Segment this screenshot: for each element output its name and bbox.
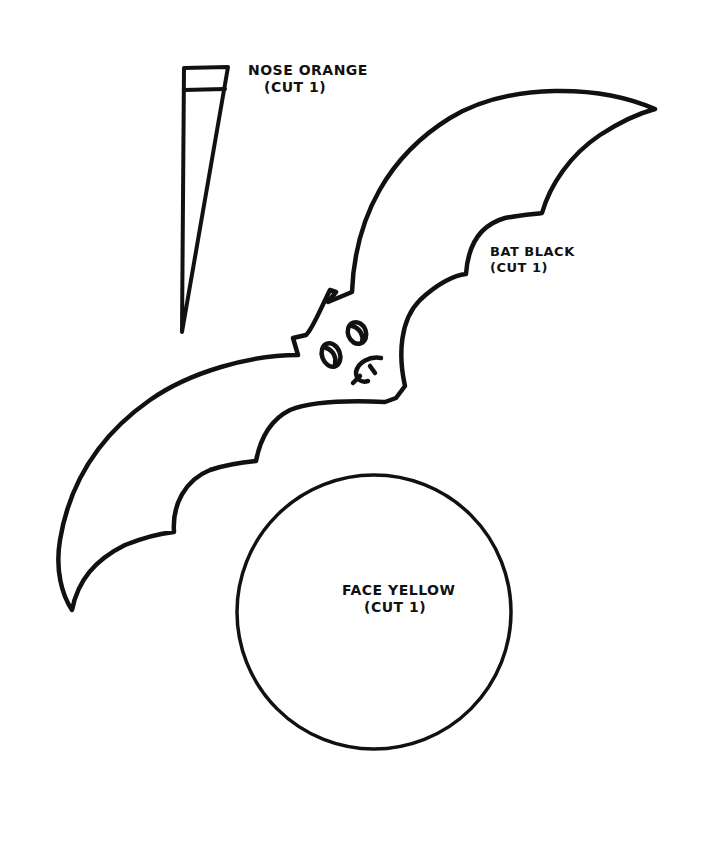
face-label: FACE YELLOW (CUT 1): [342, 582, 455, 616]
face-name: FACE YELLOW: [342, 582, 455, 599]
bat-piece: [58, 91, 655, 610]
nose-cut-count: (CUT 1): [264, 79, 368, 96]
nose-piece: [182, 67, 228, 332]
bat-name: BAT BLACK: [490, 244, 575, 260]
face-cut-count: (CUT 1): [364, 599, 455, 616]
nose-label: NOSE ORANGE (CUT 1): [248, 62, 368, 96]
bat-cut-count: (CUT 1): [490, 260, 575, 276]
nose-name: NOSE ORANGE: [248, 62, 368, 79]
bat-label: BAT BLACK (CUT 1): [490, 244, 575, 275]
template-canvas: [0, 0, 702, 862]
